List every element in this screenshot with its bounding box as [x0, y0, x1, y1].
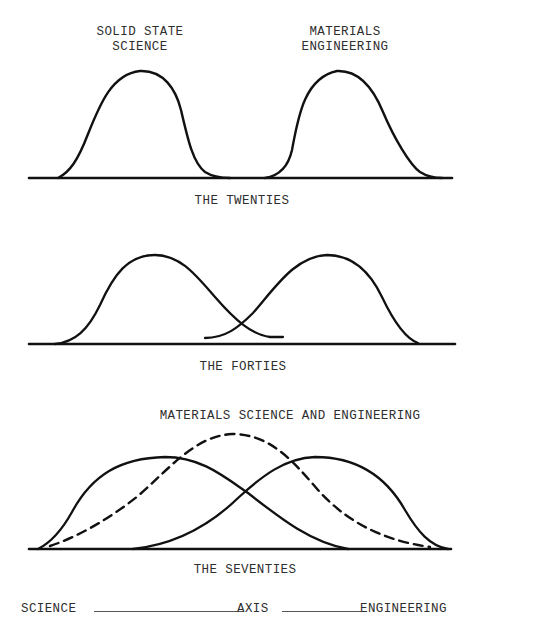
axis-label-engineering: ENGINEERING: [360, 602, 447, 616]
axis-label-science: SCIENCE: [21, 602, 76, 616]
science-engineering-axis: SCIENCE AXIS ENGINEERING: [21, 602, 461, 620]
caption-seventies: THE SEVENTIES: [180, 562, 310, 578]
label-materials-engineering-line1: MATERIALS: [285, 25, 405, 40]
forties-engineering-curve: [205, 255, 418, 343]
caption-twenties: THE TWENTIES: [180, 193, 304, 209]
seventies-science-curve: [38, 457, 348, 549]
axis-line-right: [282, 611, 361, 612]
twenties-solid-state-science-curve: [58, 71, 230, 178]
panel-twenties-graphics: [29, 71, 452, 178]
title-materials-science-and-engineering: MATERIALS SCIENCE AND ENGINEERING: [120, 408, 460, 424]
label-solid-state-science: SOLID STATE SCIENCE: [80, 25, 200, 55]
panel-seventies-graphics: [29, 434, 451, 549]
seventies-engineering-curve: [133, 457, 448, 549]
science-engineering-evolution-diagram: SOLID STATE SCIENCE MATERIALS ENGINEERIN…: [0, 0, 550, 636]
seventies-materials-science-engineering-curve: [50, 434, 430, 547]
label-materials-engineering-line2: ENGINEERING: [285, 40, 405, 55]
curves-canvas: [0, 0, 550, 636]
caption-forties: THE FORTIES: [180, 359, 306, 375]
label-solid-state-science-line1: SOLID STATE: [80, 25, 200, 40]
axis-line-left: [94, 611, 244, 612]
panel-forties-graphics: [29, 255, 455, 344]
forties-science-curve: [55, 255, 283, 344]
label-materials-engineering: MATERIALS ENGINEERING: [285, 25, 405, 55]
twenties-materials-engineering-curve: [265, 71, 442, 178]
axis-label-axis: AXIS: [237, 602, 269, 616]
label-solid-state-science-line2: SCIENCE: [80, 40, 200, 55]
